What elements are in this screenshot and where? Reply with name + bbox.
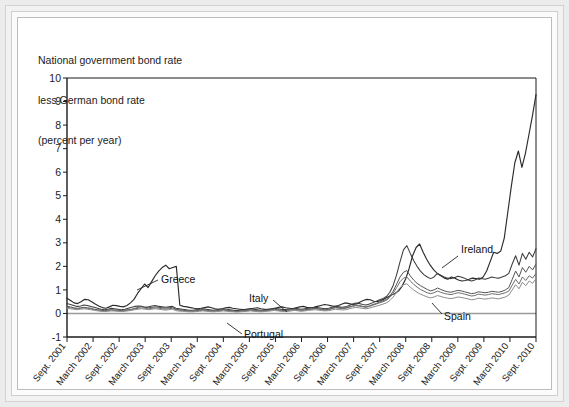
annotation-italy: Italy: [249, 292, 269, 304]
series-lines: [67, 94, 536, 312]
leader-line-greece: [137, 280, 158, 290]
y-tick-label: -1: [52, 331, 61, 343]
leader-line-spain: [432, 303, 442, 314]
annotation-portugal: Portugal: [244, 328, 283, 340]
y-tick-label: 5: [55, 189, 61, 201]
y-axis-tick-labels: -1012345678910: [49, 72, 61, 343]
chart-card: National government bond rate less Germa…: [17, 17, 552, 390]
y-tick-label: 0: [55, 307, 61, 319]
annotation-greece: Greece: [161, 273, 196, 285]
series-line-portugal: [67, 264, 536, 312]
series-line-ireland: [67, 246, 536, 311]
series-annotations: GreeceItalyPortugalIrelandSpain: [161, 243, 493, 340]
y-tick-label: 2: [55, 260, 61, 272]
y-tick-label: 8: [55, 119, 61, 131]
line-chart-plot: -1012345678910 Sept. 2001March 2002Sept.…: [18, 18, 553, 391]
annotation-spain: Spain: [444, 310, 471, 322]
series-line-greece: [67, 94, 536, 309]
x-axis-tick-labels: Sept. 2001March 2002Sept. 2002March 2003…: [30, 340, 536, 387]
y-tick-label: 3: [55, 236, 61, 248]
annotation-ireland: Ireland: [461, 243, 493, 255]
y-tick-label: 10: [49, 72, 61, 84]
y-tick-label: 4: [55, 213, 61, 225]
y-tick-label: 1: [55, 284, 61, 296]
y-tick-label: 9: [55, 95, 61, 107]
leader-line-ireland: [442, 256, 458, 268]
y-tick-label: 6: [55, 166, 61, 178]
leader-line-portugal: [227, 323, 242, 334]
page-background: National government bond rate less Germa…: [0, 0, 569, 407]
y-tick-label: 7: [55, 142, 61, 154]
